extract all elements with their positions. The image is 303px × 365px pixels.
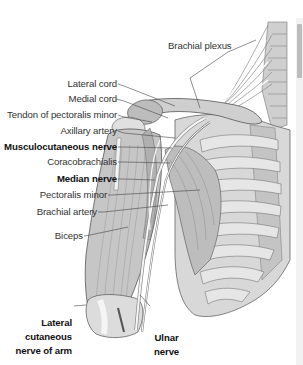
label-axillary-artery: Axillary artery xyxy=(60,125,117,136)
label-coracobrachialis: Coracobrachialis xyxy=(47,156,117,167)
label-lateral-cutaneous-nerve: Lateral cutaneous nerve of arm xyxy=(16,316,72,358)
label-brachial-plexus: Brachial plexus xyxy=(168,40,232,51)
label-ulnar-nerve: Ulnar nerve xyxy=(154,331,179,359)
label-biceps: Biceps xyxy=(55,230,83,241)
elbow xyxy=(86,295,143,338)
label-median-nerve: Median nerve xyxy=(57,173,117,184)
cervical-vertebrae xyxy=(262,22,287,130)
scrollbar-thumb[interactable] xyxy=(297,24,302,78)
label-brachial-artery: Brachial artery xyxy=(37,206,97,217)
label-tendon-pectoralis-minor: Tendon of pectoralis minor xyxy=(7,109,117,120)
label-pectoralis-minor: Pectoralis minor xyxy=(40,189,107,200)
label-musculocutaneous-nerve: Musculocutaneous nerve xyxy=(4,141,117,152)
label-lateral-cord: Lateral cord xyxy=(68,78,117,89)
anatomy-illustration xyxy=(0,0,303,365)
label-medial-cord: Medial cord xyxy=(69,93,118,104)
